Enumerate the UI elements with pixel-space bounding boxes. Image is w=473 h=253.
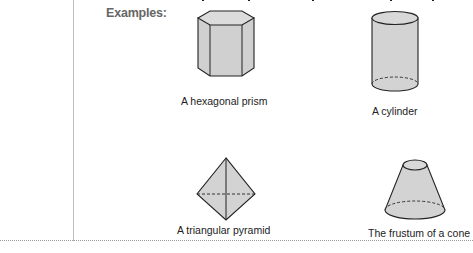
cylinder-top: [372, 12, 418, 25]
hexagonal-prism-figure: [196, 10, 256, 80]
caption-triangular-pyramid: A triangular pyramid: [177, 224, 270, 236]
margin-divider: [73, 0, 74, 241]
caption-frustum: The frustum of a cone: [368, 227, 470, 239]
frustum-body: [385, 165, 445, 219]
cut-off-text-line: [150, 0, 473, 1]
triangular-pyramid-figure: [195, 156, 257, 222]
caption-cylinder: A cylinder: [372, 105, 418, 117]
caption-hexagonal-prism: A hexagonal prism: [181, 95, 267, 107]
examples-heading: Examples:: [106, 6, 167, 20]
prism-body: [198, 18, 254, 76]
cylinder-figure: [370, 10, 420, 94]
prism-top-face: [198, 11, 254, 25]
frustum-top: [403, 160, 427, 170]
bottom-divider: [0, 240, 473, 242]
frustum-figure: [383, 158, 447, 224]
cylinder-body: [372, 18, 418, 91]
